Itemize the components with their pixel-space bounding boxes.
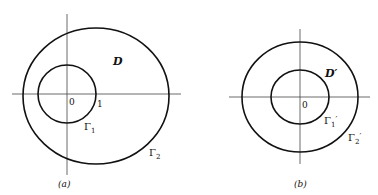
- panel-b: D′ 0 Γ1′ Γ2′ (b): [229, 29, 370, 189]
- unit-label: 1: [97, 99, 103, 109]
- gamma2-prime-label: Γ2′: [348, 131, 361, 146]
- gamma1-prime-label: Γ1′: [324, 114, 337, 129]
- caption-a: (a): [58, 179, 71, 189]
- caption-b: (b): [294, 179, 307, 189]
- gamma1-label: Γ1: [84, 121, 95, 135]
- panel-a: D 0 1 Γ1 Γ2 (a): [12, 14, 181, 189]
- gamma2-label: Γ2: [149, 147, 160, 161]
- origin-label-b: 0: [302, 100, 308, 110]
- figure-canvas: D 0 1 Γ1 Γ2 (a) D′ 0 Γ1′ Γ2′ (b): [0, 0, 378, 195]
- region-label-d-prime: D′: [324, 67, 338, 80]
- origin-label-a: 0: [69, 97, 75, 107]
- region-label-d: D: [112, 55, 123, 68]
